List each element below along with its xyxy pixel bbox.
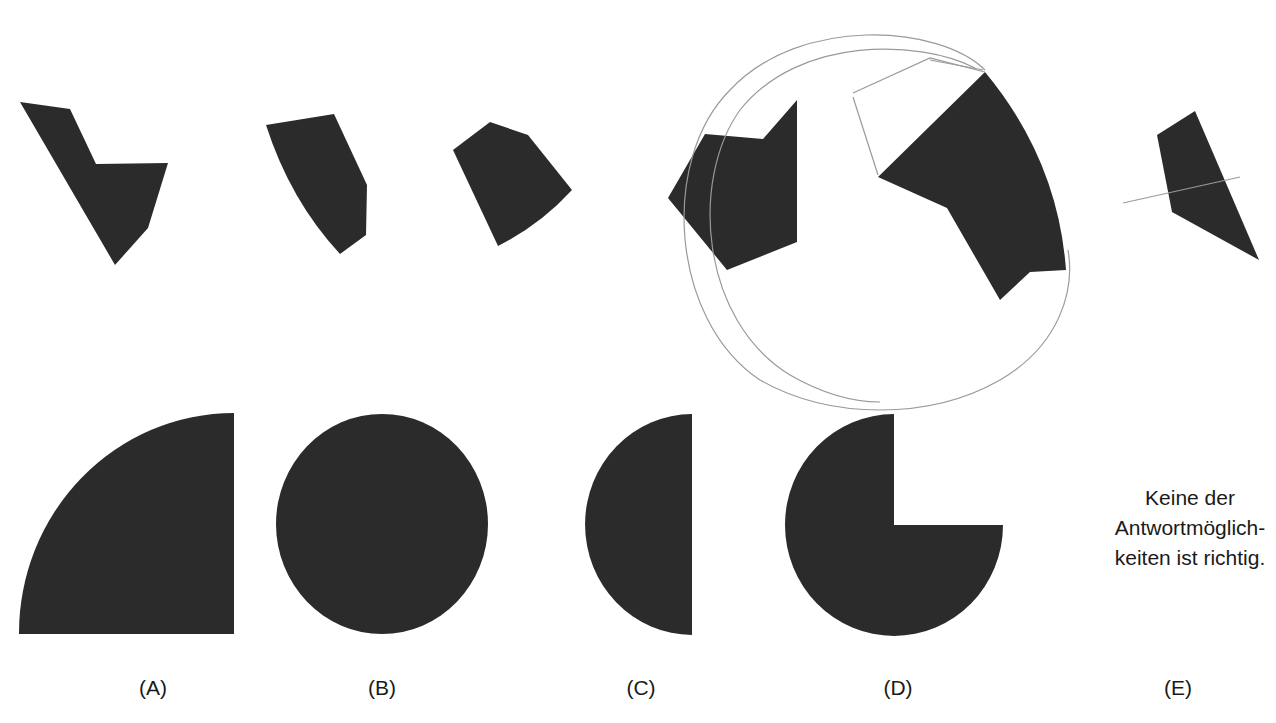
pencil-line-left — [853, 97, 878, 175]
answer-a-quarter-circle[interactable] — [19, 413, 234, 634]
answer-e-line-3: keiten ist richtig. — [1110, 543, 1270, 573]
pieces-row — [20, 72, 1259, 300]
answer-c-semicircle[interactable] — [585, 414, 692, 635]
answer-label-c: (C) — [626, 676, 655, 700]
answer-e-line-2: Antwortmöglich- — [1110, 513, 1270, 543]
puzzle-canvas — [0, 0, 1276, 723]
answer-label-d: (D) — [883, 676, 912, 700]
piece-6 — [1157, 111, 1259, 260]
answer-label-b: (B) — [368, 676, 396, 700]
piece-3 — [453, 122, 572, 246]
piece-5 — [878, 72, 1066, 300]
answer-e-line-1: Keine der — [1110, 483, 1270, 513]
answers-row — [19, 413, 1003, 636]
piece-2 — [266, 114, 367, 254]
answer-d-three-quarter-circle[interactable] — [785, 414, 1003, 636]
answer-e-text[interactable]: Keine der Antwortmöglich- keiten ist ric… — [1110, 483, 1270, 573]
answer-b-circle[interactable] — [276, 414, 488, 634]
piece-1 — [20, 102, 168, 265]
piece-4 — [668, 100, 797, 270]
answer-label-e: (E) — [1164, 676, 1192, 700]
answer-label-a: (A) — [139, 676, 167, 700]
